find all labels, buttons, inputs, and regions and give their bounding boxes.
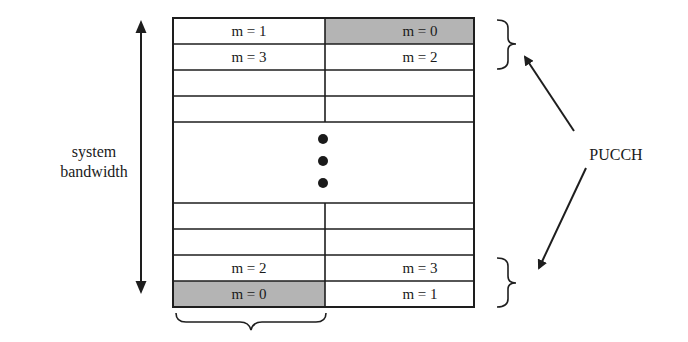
cell-bottom-3-right: m = 1 <box>402 286 437 302</box>
cell-top-0-right: m = 0 <box>402 23 437 39</box>
cell-bottom-2-left: m = 2 <box>231 260 266 276</box>
cell-bottom-3-left: m = 0 <box>231 286 266 302</box>
cell-top-1-right: m = 2 <box>402 49 437 65</box>
shaded-cell-top-right <box>325 18 474 44</box>
pucch-arrow-up-icon <box>525 57 574 131</box>
cell-top-0-left: m = 1 <box>231 23 266 39</box>
system-bandwidth-line2: bandwidth <box>44 162 144 182</box>
ellipsis-dots-icon <box>318 134 328 188</box>
system-bandwidth-label: system bandwidth <box>44 142 144 182</box>
pucch-arrow-down-icon <box>539 168 586 268</box>
brace-bottom-icon <box>176 313 326 330</box>
system-bandwidth-line1: system <box>44 142 144 162</box>
cell-top-1-left: m = 3 <box>231 49 266 65</box>
cell-bottom-2-right: m = 3 <box>402 260 437 276</box>
brace-bottom-right-icon <box>497 258 516 307</box>
pucch-label: PUCCH <box>576 145 656 165</box>
brace-top-right-icon <box>497 20 516 69</box>
